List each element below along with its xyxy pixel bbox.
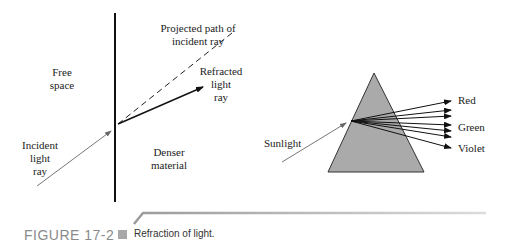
label-incident-ray: Incident light ray (20, 139, 60, 178)
caption-square-marker (118, 230, 127, 239)
figure-caption: Refraction of light. (134, 228, 215, 239)
label-projected-path: Projected path of incident ray (148, 22, 248, 48)
caption-rule (134, 213, 486, 224)
label-free-space: Free space (40, 66, 84, 92)
label-red: Red (458, 94, 498, 107)
prism-diagram (282, 73, 451, 172)
label-refracted-ray: Refracted light ray (196, 65, 246, 104)
label-violet: Violet (458, 142, 498, 155)
label-sunlight: Sunlight (264, 137, 314, 150)
label-denser-material: Denser material (146, 146, 192, 172)
refracted-ray-arrow (118, 87, 203, 124)
figure-number: FIGURE 17-2 (24, 227, 114, 243)
label-green: Green (458, 121, 498, 134)
figure-canvas (0, 0, 508, 248)
